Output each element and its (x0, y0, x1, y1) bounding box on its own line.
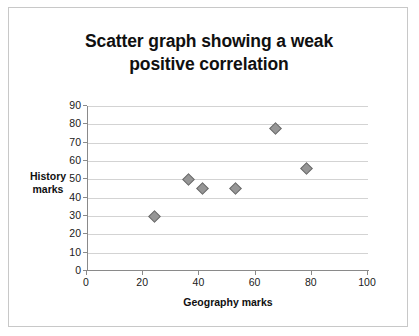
gridline (87, 216, 368, 217)
gridline (87, 124, 368, 125)
x-axis-tick-label: 80 (291, 276, 331, 288)
gridline (87, 253, 368, 254)
y-axis-tick (83, 197, 87, 198)
y-axis-tick-label: 70 (51, 136, 81, 148)
y-axis-line (87, 106, 88, 271)
data-point (148, 210, 161, 223)
y-axis-tick (83, 233, 87, 234)
x-axis-tick-label: 0 (66, 276, 106, 288)
data-point (196, 182, 209, 195)
y-axis-tick (83, 105, 87, 106)
gridline (87, 161, 368, 162)
x-axis-tick-label: 40 (178, 276, 218, 288)
chart-title-line-2: positive correlation (39, 53, 379, 76)
x-axis-line (87, 270, 369, 271)
gridline (87, 179, 368, 180)
chart-title-line-1: Scatter graph showing a weak (39, 30, 379, 53)
y-axis-tick (83, 142, 87, 143)
plot-area (87, 106, 368, 270)
x-axis-tick (198, 271, 199, 275)
y-axis-tick-label: 90 (51, 99, 81, 111)
chart-title: Scatter graph showing a weak positive co… (39, 30, 379, 76)
x-axis-tick-label: 60 (235, 276, 275, 288)
x-axis-tick-label: 100 (347, 276, 387, 288)
data-point (182, 173, 195, 186)
y-axis-title-line-1: History (17, 170, 79, 183)
y-axis-tick (83, 160, 87, 161)
y-axis-tick-label: 10 (51, 246, 81, 258)
gridline (87, 106, 368, 107)
y-axis-tick-label: 30 (51, 209, 81, 221)
gridline (87, 143, 368, 144)
x-axis-tick-label: 20 (122, 276, 162, 288)
data-point (230, 182, 243, 195)
y-axis-tick (83, 215, 87, 216)
gridline (87, 198, 368, 199)
chart-container: Scatter graph showing a weak positive co… (8, 7, 408, 327)
gridline (87, 234, 368, 235)
y-axis-tick-label: 0 (51, 264, 81, 276)
x-axis-tick (142, 271, 143, 275)
x-axis-title: Geography marks (87, 296, 369, 308)
y-axis-tick-label: 60 (51, 154, 81, 166)
x-axis-tick (367, 271, 368, 275)
data-point (300, 162, 313, 175)
y-axis-tick-label: 20 (51, 227, 81, 239)
y-axis-title-line-2: marks (17, 183, 79, 196)
x-axis-tick (311, 271, 312, 275)
x-axis-tick (255, 271, 256, 275)
y-axis-tick-label: 80 (51, 117, 81, 129)
y-axis-tick (83, 252, 87, 253)
y-axis-title: History marks (17, 170, 79, 196)
y-axis-tick (83, 178, 87, 179)
y-axis-tick (83, 123, 87, 124)
x-axis-tick (86, 271, 87, 275)
